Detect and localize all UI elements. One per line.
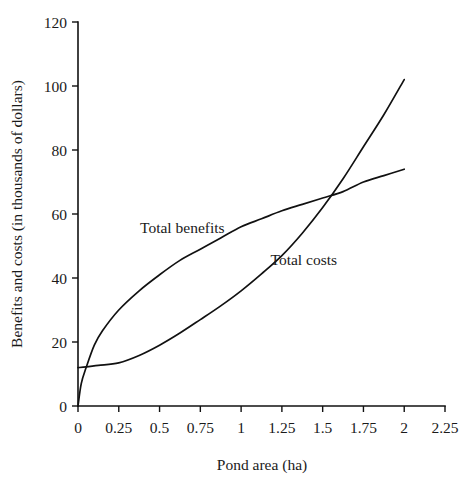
y-axis-tick-label: 20 [52,334,68,351]
y-axis-title: Benefits and costs (in thousands of doll… [8,80,26,348]
x-axis-tick-label: 0.75 [187,419,214,436]
benefits-costs-line-chart: 020406080100120 00.250.50.7511.251.51.75… [0,0,475,487]
plot-area-background [0,0,475,487]
chart-figure: 020406080100120 00.250.50.7511.251.51.75… [0,0,475,487]
y-axis-tick-label: 100 [44,78,68,95]
total-benefits-label: Total benefits [140,219,225,236]
x-axis-tick-label: 1 [237,419,245,436]
y-axis-tick-label: 60 [52,206,68,223]
x-axis-title: Pond area (ha) [217,456,307,474]
x-axis-tick-label: 0.25 [105,419,132,436]
x-axis-tick-label: 2.25 [431,419,458,436]
x-axis-tick-label: 1.75 [350,419,377,436]
x-axis-tick-label: 2 [400,419,408,436]
y-axis-tick-label: 120 [44,14,68,31]
x-axis-tick-label: 1.25 [268,419,295,436]
y-axis-tick-label: 80 [52,142,68,159]
x-axis-tick-label: 1.5 [313,419,333,436]
total-costs-label: Total costs [271,251,338,268]
y-axis-tick-label: 0 [59,398,67,415]
x-axis-tick-label: 0 [74,419,82,436]
x-axis-tick-label: 0.5 [150,419,170,436]
y-axis-tick-label: 40 [52,270,68,287]
